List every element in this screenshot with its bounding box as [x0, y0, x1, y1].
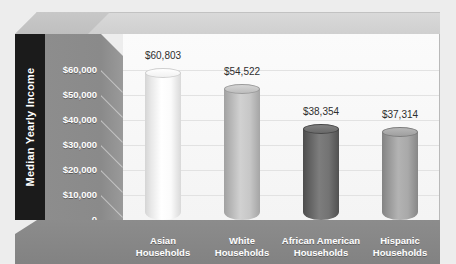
bar-body: [145, 73, 181, 220]
bar-top-cap: [303, 124, 339, 134]
bar-top-cap: [224, 84, 260, 94]
bar: [382, 127, 418, 220]
plot-side-wall-gridlines: [101, 34, 123, 220]
bar-value-label: $37,314: [360, 109, 440, 120]
side-wall-gridline: [100, 70, 123, 93]
chart-3d-block: Median Yearly Income $60,000$50,000$40,0…: [15, 12, 440, 242]
plot-side-wall: [101, 34, 123, 220]
side-wall-gridline: [100, 170, 123, 193]
bar-body: [224, 89, 260, 220]
y-axis-title: Median Yearly Income: [15, 34, 45, 220]
plot-frame-right-edge: [439, 34, 440, 220]
side-wall-gridline: [100, 195, 123, 218]
bar: [303, 124, 339, 220]
bar-body: [382, 132, 418, 220]
y-axis-tick-label: $60,000: [63, 64, 97, 75]
bar-value-label: $54,522: [202, 66, 282, 77]
y-axis-title-band: Median Yearly Income: [15, 34, 45, 220]
y-axis-tick-label: $30,000: [63, 139, 97, 150]
y-axis-tick-band: $60,000$50,000$40,000$30,000$20,000$10,0…: [45, 34, 101, 220]
x-axis-category-band: AsianHouseholdsWhiteHouseholdsAfrican Am…: [15, 220, 440, 264]
x-axis-category-label-line: Households: [340, 247, 456, 259]
x-axis-category-label-line: Hispanic: [340, 235, 456, 247]
plot-area: [123, 34, 440, 220]
bar-top-cap: [382, 127, 418, 137]
bar-top-cap: [145, 68, 181, 78]
x-axis-category-label: HispanicHouseholds: [340, 235, 456, 259]
bar: [145, 68, 181, 220]
bar: [224, 84, 260, 220]
bar-value-label: $38,354: [281, 106, 361, 117]
bar-body: [303, 129, 339, 220]
side-wall-gridline: [100, 120, 123, 143]
y-axis-tick-label: $50,000: [63, 89, 97, 100]
y-axis-tick-label: $40,000: [63, 114, 97, 125]
side-wall-gridline: [100, 95, 123, 118]
side-wall-gridline: [100, 145, 123, 168]
y-axis-tick-label: $10,000: [63, 189, 97, 200]
y-axis-tick-label: $20,000: [63, 164, 97, 175]
bar-value-label: $60,803: [123, 50, 203, 61]
